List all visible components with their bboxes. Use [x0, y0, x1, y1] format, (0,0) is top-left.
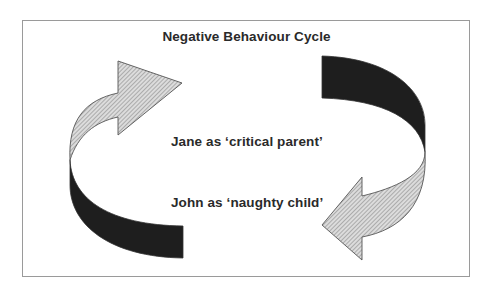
label-critical-parent: Jane as ‘critical parent’ — [171, 134, 323, 149]
right-arrow-hatched-head — [322, 152, 425, 260]
right-arrow-dark-band — [322, 56, 425, 152]
label-naughty-child: John as ‘naughty child’ — [171, 195, 323, 210]
left-arrow-hatched-head — [70, 61, 182, 160]
diagram-title: Negative Behaviour Cycle — [0, 29, 493, 44]
left-arrow-dark-band — [70, 160, 183, 258]
left-arrow — [70, 61, 183, 258]
right-arrow — [322, 56, 425, 260]
